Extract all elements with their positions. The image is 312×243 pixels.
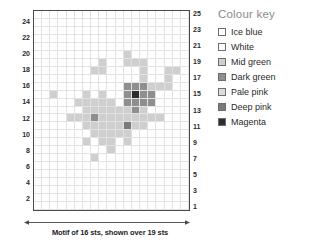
- chart-cell-r1-c8[interactable]: [91, 202, 99, 210]
- chart-cell-r24-c2[interactable]: [42, 19, 50, 27]
- chart-cell-r8-c5[interactable]: [67, 146, 75, 154]
- chart-cell-r23-c3[interactable]: [50, 27, 58, 35]
- chart-cell-r4-c7[interactable]: [83, 178, 91, 186]
- chart-cell-r24-c16[interactable]: [156, 19, 164, 27]
- chart-cell-r12-c5[interactable]: [67, 114, 75, 122]
- chart-cell-r16-c9[interactable]: [99, 83, 107, 91]
- chart-cell-r17-c4[interactable]: [58, 75, 66, 83]
- chart-cell-r17-c1[interactable]: [34, 75, 42, 83]
- chart-cell-r12-c14[interactable]: [140, 114, 148, 122]
- chart-cell-r5-c3[interactable]: [50, 170, 58, 178]
- chart-cell-r13-c18[interactable]: [173, 107, 181, 115]
- chart-cell-r6-c3[interactable]: [50, 162, 58, 170]
- chart-cell-r19-c13[interactable]: [132, 59, 140, 67]
- chart-cell-r11-c15[interactable]: [148, 122, 156, 130]
- chart-cell-r1-c10[interactable]: [107, 202, 115, 210]
- chart-cell-r8-c10[interactable]: [107, 146, 115, 154]
- chart-cell-r1-c1[interactable]: [34, 202, 42, 210]
- chart-cell-r20-c7[interactable]: [83, 51, 91, 59]
- chart-cell-r6-c1[interactable]: [34, 162, 42, 170]
- chart-cell-r12-c1[interactable]: [34, 114, 42, 122]
- chart-cell-r12-c17[interactable]: [165, 114, 173, 122]
- chart-cell-r16-c3[interactable]: [50, 83, 58, 91]
- chart-grid[interactable]: [33, 10, 190, 211]
- chart-cell-r24-c3[interactable]: [50, 19, 58, 27]
- chart-cell-r20-c11[interactable]: [116, 51, 124, 59]
- chart-cell-r10-c13[interactable]: [132, 130, 140, 138]
- chart-cell-r3-c1[interactable]: [34, 186, 42, 194]
- chart-cell-r2-c4[interactable]: [58, 194, 66, 202]
- chart-cell-r19-c11[interactable]: [116, 59, 124, 67]
- chart-cell-r9-c13[interactable]: [132, 138, 140, 146]
- chart-cell-r11-c17[interactable]: [165, 122, 173, 130]
- chart-cell-r11-c4[interactable]: [58, 122, 66, 130]
- chart-cell-r13-c6[interactable]: [75, 107, 83, 115]
- chart-cell-r11-c9[interactable]: [99, 122, 107, 130]
- chart-cell-r20-c12[interactable]: [124, 51, 132, 59]
- chart-cell-r9-c8[interactable]: [91, 138, 99, 146]
- chart-cell-r8-c2[interactable]: [42, 146, 50, 154]
- chart-cell-r2-c7[interactable]: [83, 194, 91, 202]
- chart-cell-r16-c5[interactable]: [67, 83, 75, 91]
- chart-cell-r23-c7[interactable]: [83, 27, 91, 35]
- chart-cell-r10-c18[interactable]: [173, 130, 181, 138]
- chart-cell-r13-c4[interactable]: [58, 107, 66, 115]
- chart-cell-r7-c1[interactable]: [34, 154, 42, 162]
- chart-cell-r7-c2[interactable]: [42, 154, 50, 162]
- chart-cell-r19-c7[interactable]: [83, 59, 91, 67]
- chart-cell-r14-c19[interactable]: [181, 99, 189, 107]
- chart-cell-r9-c12[interactable]: [124, 138, 132, 146]
- chart-cell-r17-c11[interactable]: [116, 75, 124, 83]
- chart-cell-r2-c12[interactable]: [124, 194, 132, 202]
- chart-cell-r13-c12[interactable]: [124, 107, 132, 115]
- chart-cell-r8-c3[interactable]: [50, 146, 58, 154]
- chart-cell-r13-c7[interactable]: [83, 107, 91, 115]
- chart-cell-r21-c15[interactable]: [148, 43, 156, 51]
- chart-cell-r24-c5[interactable]: [67, 19, 75, 27]
- chart-cell-r22-c18[interactable]: [173, 35, 181, 43]
- chart-cell-r13-c17[interactable]: [165, 107, 173, 115]
- chart-cell-r12-c12[interactable]: [124, 114, 132, 122]
- chart-cell-r11-c10[interactable]: [107, 122, 115, 130]
- chart-cell-r12-c8[interactable]: [91, 114, 99, 122]
- chart-cell-r23-c17[interactable]: [165, 27, 173, 35]
- chart-cell-r21-c19[interactable]: [181, 43, 189, 51]
- chart-cell-r25-c3[interactable]: [50, 11, 58, 19]
- chart-cell-r9-c5[interactable]: [67, 138, 75, 146]
- chart-cell-r11-c6[interactable]: [75, 122, 83, 130]
- chart-cell-r4-c19[interactable]: [181, 178, 189, 186]
- chart-cell-r14-c9[interactable]: [99, 99, 107, 107]
- chart-cell-r22-c1[interactable]: [34, 35, 42, 43]
- chart-cell-r5-c12[interactable]: [124, 170, 132, 178]
- chart-cell-r14-c14[interactable]: [140, 99, 148, 107]
- chart-cell-r23-c5[interactable]: [67, 27, 75, 35]
- chart-cell-r23-c2[interactable]: [42, 27, 50, 35]
- chart-cell-r8-c14[interactable]: [140, 146, 148, 154]
- chart-cell-r7-c12[interactable]: [124, 154, 132, 162]
- chart-cell-r3-c14[interactable]: [140, 186, 148, 194]
- chart-cell-r15-c6[interactable]: [75, 91, 83, 99]
- chart-cell-r16-c16[interactable]: [156, 83, 164, 91]
- chart-cell-r9-c11[interactable]: [116, 138, 124, 146]
- chart-cell-r4-c5[interactable]: [67, 178, 75, 186]
- chart-cell-r20-c17[interactable]: [165, 51, 173, 59]
- chart-cell-r9-c14[interactable]: [140, 138, 148, 146]
- chart-cell-r3-c3[interactable]: [50, 186, 58, 194]
- chart-cell-r19-c14[interactable]: [140, 59, 148, 67]
- chart-cell-r9-c6[interactable]: [75, 138, 83, 146]
- chart-cell-r19-c2[interactable]: [42, 59, 50, 67]
- chart-cell-r20-c3[interactable]: [50, 51, 58, 59]
- chart-cell-r17-c7[interactable]: [83, 75, 91, 83]
- chart-cell-r19-c6[interactable]: [75, 59, 83, 67]
- chart-cell-r6-c13[interactable]: [132, 162, 140, 170]
- chart-cell-r13-c11[interactable]: [116, 107, 124, 115]
- chart-cell-r20-c15[interactable]: [148, 51, 156, 59]
- chart-cell-r8-c9[interactable]: [99, 146, 107, 154]
- chart-cell-r10-c15[interactable]: [148, 130, 156, 138]
- chart-cell-r22-c16[interactable]: [156, 35, 164, 43]
- chart-cell-r7-c19[interactable]: [181, 154, 189, 162]
- chart-cell-r10-c6[interactable]: [75, 130, 83, 138]
- chart-cell-r1-c19[interactable]: [181, 202, 189, 210]
- chart-cell-r25-c14[interactable]: [140, 11, 148, 19]
- chart-cell-r6-c4[interactable]: [58, 162, 66, 170]
